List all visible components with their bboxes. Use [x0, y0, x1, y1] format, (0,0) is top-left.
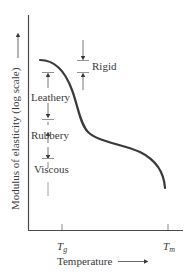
modulus-temperature-diagram: Rigid Leathery Rubbery Viscous Modulus o…: [0, 0, 191, 272]
tm-label: Tm: [163, 240, 175, 254]
x-axis-label: Temperature: [57, 255, 113, 267]
rigid-label: Rigid: [92, 60, 117, 72]
rubbery-label: Rubbery: [31, 129, 69, 141]
rigid-indicator: [77, 40, 89, 90]
y-axis-label: Modulus of elasticity (log scale): [9, 67, 22, 210]
viscous-label: Viscous: [34, 163, 69, 175]
leathery-label: Leathery: [31, 91, 71, 103]
tg-label: Tg: [57, 240, 67, 254]
